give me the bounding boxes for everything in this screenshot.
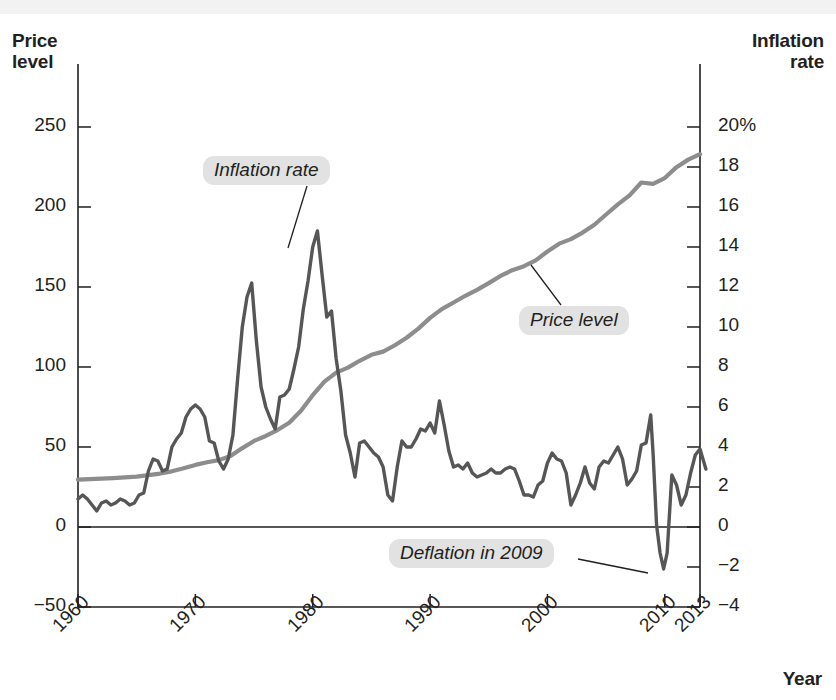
- leader-inflation-rate: [288, 186, 307, 248]
- callout-inflation-rate: Inflation rate: [203, 156, 330, 185]
- leader-price-level: [531, 265, 561, 305]
- right-tick-label: 20%: [718, 114, 756, 136]
- right-tick-label: 4: [718, 434, 729, 456]
- left-tick-label: 100: [8, 354, 66, 376]
- left-tick-label: 250: [8, 114, 66, 136]
- callout-price-level: Price level: [519, 306, 629, 335]
- right-tick-label: 18: [718, 154, 739, 176]
- chart-canvas: [0, 0, 836, 700]
- right-tick-label: 16: [718, 194, 739, 216]
- chart-figure: Price level Inflation rate Year −5005010…: [0, 0, 836, 700]
- right-tick-label: −2: [718, 554, 740, 576]
- callout-deflation-2009: Deflation in 2009: [389, 539, 554, 568]
- left-tick-label: 0: [8, 514, 66, 536]
- right-tick-label: −4: [718, 594, 740, 616]
- right-tick-label: 6: [718, 394, 729, 416]
- right-tick-label: 10: [718, 314, 739, 336]
- series-layer: [78, 154, 706, 569]
- right-tick-label: 14: [718, 234, 739, 256]
- annotation-leader-lines: [288, 186, 648, 573]
- right-tick-label: 0: [718, 514, 729, 536]
- left-tick-label: 150: [8, 274, 66, 296]
- series-line-inflation-rate: [78, 231, 706, 569]
- right-tick-label: 2: [718, 474, 729, 496]
- left-tick-label: 200: [8, 194, 66, 216]
- left-tick-label: 50: [8, 434, 66, 456]
- leader-deflation-2009: [578, 559, 648, 573]
- axes-layer: [78, 64, 700, 607]
- right-tick-label: 8: [718, 354, 729, 376]
- right-tick-label: 12: [718, 274, 739, 296]
